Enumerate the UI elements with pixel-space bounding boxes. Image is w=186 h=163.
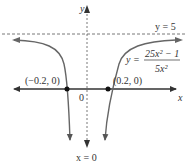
function-numerator: 25x² − 1: [145, 48, 179, 59]
y-axis-label: y: [79, 3, 85, 14]
point-neg: [65, 87, 70, 92]
x-axis-label: x: [177, 92, 183, 103]
point-pos: [106, 87, 111, 92]
point-neg-label: (−0.2, 0): [25, 75, 60, 87]
horizontal-asymptote-label: y = 5: [155, 21, 176, 32]
curve-left: [14, 40, 70, 140]
point-pos-label: (0.2, 0): [113, 75, 142, 87]
vertical-asymptote-label: x = 0: [76, 152, 97, 163]
origin-label: 0: [79, 92, 84, 103]
function-lhs: y =: [125, 54, 140, 65]
graph: y x 0 y = 5 x = 0 (−0.2, 0) (0.2, 0) y =…: [0, 0, 186, 163]
function-denominator: 5x²: [155, 63, 168, 74]
